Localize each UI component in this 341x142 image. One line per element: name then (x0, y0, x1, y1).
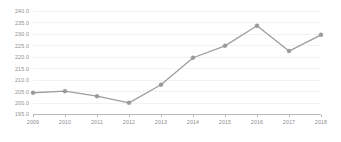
x-axis-tick-labels: 2009201020112012201320142015201620172018 (27, 119, 327, 125)
y-tick-label: 235.0 (15, 20, 29, 26)
x-tick-label: 2012 (123, 119, 135, 125)
x-tick-label: 2010 (59, 119, 71, 125)
x-tick-label: 2014 (187, 119, 199, 125)
y-tick-label: 220.0 (15, 54, 29, 60)
y-tick-label: 205.0 (15, 89, 29, 95)
data-point-marker (319, 33, 323, 37)
x-tick-label: 2009 (27, 119, 39, 125)
data-point-marker (127, 101, 131, 105)
line-chart: 195.0200.0205.0210.0215.0220.0225.0230.0… (0, 0, 341, 142)
data-point-marker (95, 94, 99, 98)
data-point-marker (63, 89, 67, 93)
data-point-marker (31, 91, 35, 95)
y-tick-label: 200.0 (15, 100, 29, 106)
y-tick-label: 225.0 (15, 43, 29, 49)
y-tick-label: 230.0 (15, 31, 29, 37)
data-series-line (33, 26, 321, 103)
data-point-marker (287, 49, 291, 53)
y-axis-tick-labels: 195.0200.0205.0210.0215.0220.0225.0230.0… (15, 8, 29, 117)
series-polyline (33, 26, 321, 103)
data-point-marker (255, 24, 259, 28)
x-tick-label: 2013 (155, 119, 167, 125)
x-tick-label: 2011 (91, 119, 103, 125)
y-tick-label: 195.0 (15, 111, 29, 117)
x-axis (33, 115, 321, 117)
y-tick-label: 240.0 (15, 8, 29, 14)
gridline-group (33, 12, 321, 104)
data-point-marker (223, 44, 227, 48)
x-tick-label: 2015 (219, 119, 231, 125)
x-tick-label: 2018 (315, 119, 327, 125)
x-tick-label: 2016 (251, 119, 263, 125)
y-tick-label: 215.0 (15, 66, 29, 72)
data-point-marker (191, 56, 195, 60)
data-point-marker (159, 83, 163, 87)
x-tick-label: 2017 (283, 119, 295, 125)
chart-canvas: 195.0200.0205.0210.0215.0220.0225.0230.0… (0, 0, 341, 142)
y-tick-label: 210.0 (15, 77, 29, 83)
